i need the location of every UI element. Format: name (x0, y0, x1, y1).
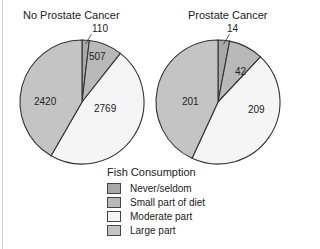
legend-label: Large part (130, 225, 176, 236)
legend-swatch (107, 225, 121, 236)
legend-label: Never/seldom (130, 183, 192, 194)
slice-label-moderate-part: 209 (248, 104, 265, 115)
legend-swatch (107, 197, 121, 208)
slice-label-moderate-part: 2769 (94, 103, 116, 114)
pie-1 (156, 34, 280, 164)
slice-label-large-part: 201 (182, 96, 199, 107)
pie-title-no-cancer: No Prostate Cancer (23, 9, 120, 21)
legend-label: Moderate part (130, 211, 192, 222)
legend-item-small-part: Small part of diet (107, 196, 205, 208)
slice-label-small-part: 507 (89, 51, 106, 62)
pie-title-cancer: Prostate Cancer (188, 9, 267, 21)
legend-title: Fish Consumption (107, 166, 196, 178)
legend-swatch (107, 211, 121, 222)
slice-label-never-seldom: 110 (92, 23, 108, 34)
slice-label-never-seldom: 14 (227, 23, 238, 34)
legend-swatch (107, 183, 121, 194)
slice-label-small-part: 42 (235, 66, 246, 77)
legend-label: Small part of diet (130, 197, 205, 208)
legend-item-moderate-part: Moderate part (107, 210, 192, 222)
legend-item-large-part: Large part (107, 224, 176, 236)
slice-label-large-part: 2420 (34, 96, 56, 107)
legend-item-never-seldom: Never/seldom (107, 182, 192, 194)
